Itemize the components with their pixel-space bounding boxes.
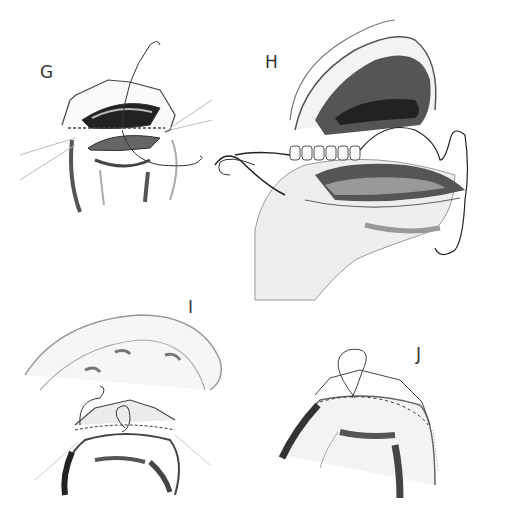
panel-j: J	[270, 320, 510, 515]
panel-i: I	[0, 280, 260, 515]
panel-g: G	[0, 0, 255, 257]
anastomosis-illustration-i	[0, 280, 260, 515]
anastomosis-illustration-h	[255, 0, 510, 300]
panel-h: H	[255, 0, 510, 300]
anastomosis-illustration-j	[270, 320, 510, 515]
anastomosis-illustration-g	[0, 0, 255, 257]
